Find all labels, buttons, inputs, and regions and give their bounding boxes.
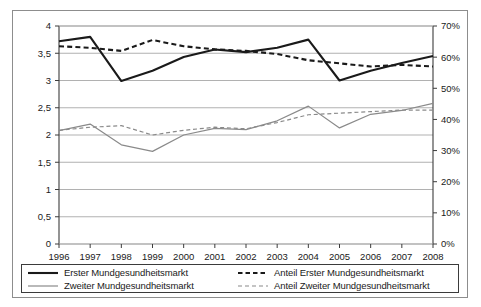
left-axis-tick-label: 0,5 bbox=[38, 211, 51, 222]
chart-legend: Erster Mundgesundheitsmarkt Anteil Erste… bbox=[21, 264, 459, 293]
legend-label-anteil-zweiter: Anteil Zweiter Mundgesundheitsmarkt bbox=[274, 280, 429, 291]
right-axis-tick-label: 60% bbox=[441, 52, 461, 63]
series-line-0 bbox=[59, 37, 433, 81]
left-axis-ticks bbox=[55, 26, 59, 244]
right-axis-tick-label: 20% bbox=[441, 176, 461, 187]
x-axis-tick-label: 2003 bbox=[267, 251, 288, 262]
x-axis-tick-label: 1999 bbox=[142, 251, 163, 262]
left-axis-tick-label: 2 bbox=[46, 129, 51, 140]
x-axis-tick-label: 1997 bbox=[80, 251, 101, 262]
legend-item-zweiter: Zweiter Mundgesundheitsmarkt bbox=[28, 279, 246, 292]
legend-label-anteil-erster: Anteil Erster Mundgesundheitsmarkt bbox=[274, 267, 424, 278]
left-axis-tick-label: 3 bbox=[46, 75, 51, 86]
left-axis-tick-labels: 00,511,522,533,54 bbox=[38, 20, 51, 249]
figure-outer-border: 00,511,522,533,54 0%10%20%30%40%50%60%70… bbox=[12, 10, 468, 298]
right-axis-tick-label: 70% bbox=[441, 20, 461, 31]
right-axis-tick-label: 30% bbox=[441, 145, 461, 156]
legend-label-erster: Erster Mundgesundheitsmarkt bbox=[64, 267, 188, 278]
left-axis-tick-label: 2,5 bbox=[38, 102, 51, 113]
x-axis-tick-labels: 1996199719981999200020012002200320042005… bbox=[48, 251, 443, 262]
right-axis-ticks bbox=[433, 26, 437, 244]
legend-line-swatch-solid-black bbox=[28, 268, 58, 278]
legend-line-swatch-dashed-gray bbox=[238, 281, 268, 291]
x-axis-tick-label: 1996 bbox=[48, 251, 69, 262]
series-line-1 bbox=[59, 103, 433, 151]
x-axis-tick-label: 2002 bbox=[235, 251, 256, 262]
right-axis-tick-label: 50% bbox=[441, 83, 461, 94]
legend-label-zweiter: Zweiter Mundgesundheitsmarkt bbox=[64, 280, 194, 291]
left-axis-tick-label: 4 bbox=[46, 20, 51, 31]
right-axis-tick-label: 10% bbox=[441, 207, 461, 218]
right-axis-tick-label: 40% bbox=[441, 114, 461, 125]
legend-item-anteil-erster: Anteil Erster Mundgesundheitsmarkt bbox=[238, 266, 458, 279]
right-axis-tick-label: 0% bbox=[441, 238, 455, 249]
right-axis-tick-labels: 0%10%20%30%40%50%60%70% bbox=[441, 20, 461, 249]
chart-figure: 00,511,522,533,54 0%10%20%30%40%50%60%70… bbox=[0, 0, 481, 307]
gridlines bbox=[59, 26, 433, 244]
left-axis-tick-label: 0 bbox=[46, 238, 51, 249]
left-axis-tick-label: 3,5 bbox=[38, 48, 51, 59]
x-axis-tick-label: 1998 bbox=[111, 251, 132, 262]
x-axis-tick-label: 2000 bbox=[173, 251, 194, 262]
x-axis-tick-label: 2006 bbox=[360, 251, 381, 262]
left-axis-tick-label: 1,5 bbox=[38, 157, 51, 168]
left-axis-tick-label: 1 bbox=[46, 184, 51, 195]
legend-item-erster: Erster Mundgesundheitsmarkt bbox=[28, 266, 246, 279]
legend-item-anteil-zweiter: Anteil Zweiter Mundgesundheitsmarkt bbox=[238, 279, 458, 292]
chart-panel: 00,511,522,533,54 0%10%20%30%40%50%60%70… bbox=[13, 11, 467, 297]
data-series bbox=[59, 37, 433, 151]
x-axis-tick-label: 2005 bbox=[329, 251, 350, 262]
x-axis-tick-label: 2008 bbox=[422, 251, 443, 262]
x-axis-tick-label: 2001 bbox=[204, 251, 225, 262]
x-axis-tick-label: 2004 bbox=[298, 251, 319, 262]
legend-line-swatch-solid-gray bbox=[28, 281, 58, 291]
x-axis-ticks bbox=[59, 244, 433, 248]
line-chart-plot: 00,511,522,533,54 0%10%20%30%40%50%60%70… bbox=[13, 11, 469, 299]
x-axis-tick-label: 2007 bbox=[391, 251, 412, 262]
legend-line-swatch-dashed-black bbox=[238, 268, 268, 278]
